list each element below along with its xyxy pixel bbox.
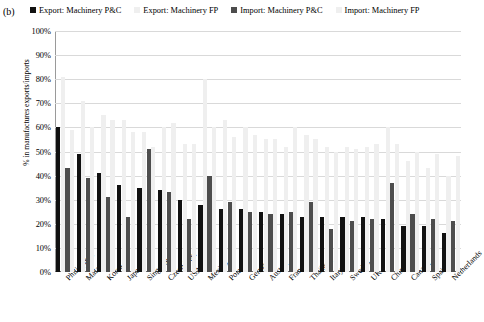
bar-group [319,31,339,272]
bar-group [96,31,116,272]
bar [158,190,162,272]
y-tick-label: 100% [7,27,51,36]
bar [410,214,414,272]
bar-group [400,31,420,272]
bar-group [136,31,156,272]
y-tick-label: 30% [7,195,51,204]
bar [446,176,450,272]
legend-item-1: Export: Machinery FP [134,6,218,15]
bar [86,178,90,272]
bar [147,149,151,272]
bar [70,130,74,272]
bar [219,209,223,272]
bar [81,101,85,272]
bar [162,127,166,272]
bar [435,154,439,272]
bar-group [380,31,400,272]
bar [203,79,207,272]
y-tick-label: 80% [7,75,51,84]
bar [365,147,369,272]
bar [207,176,211,272]
bar-group [360,31,380,272]
bar-group [75,31,95,272]
chart-legend: Export: Machinery P&CExport: Machinery F… [30,3,460,17]
bar [406,161,410,272]
bar [223,120,227,272]
y-tick-label: 60% [7,123,51,132]
bar [456,156,460,272]
y-tick-label: 0% [7,268,51,277]
bar [192,144,196,272]
bar [142,132,146,272]
bar [110,120,114,272]
bar [340,217,344,272]
bar [106,197,110,272]
bar-group [441,31,461,272]
bar [442,233,446,272]
bar [415,152,419,273]
bar [325,147,329,272]
bar [354,149,358,272]
bar [350,221,354,272]
panel-label: (b) [3,6,15,17]
bar [401,226,405,272]
bar [187,219,191,272]
bar-group [217,31,237,272]
bar [259,212,263,272]
bar [320,217,324,272]
bar [77,154,81,272]
bar [334,152,338,273]
plot-area [55,31,461,272]
bar [273,139,277,272]
legend-label: Export: Machinery P&C [39,6,121,15]
bar [361,217,365,272]
bar [395,144,399,272]
legend-swatch-icon [134,7,140,13]
bar [386,127,390,272]
bar-group [278,31,298,272]
bar-group [197,31,217,272]
bar [239,209,243,272]
legend-item-3: Import: Machinery FP [336,6,420,15]
y-tick-label: 10% [7,243,51,252]
y-tick-label: 90% [7,51,51,60]
bar-group [420,31,440,272]
bar [390,183,394,272]
legend-swatch-icon [30,7,36,13]
bar [422,226,426,272]
bar [374,144,378,272]
bar [122,120,126,272]
bar [451,221,455,272]
bar [171,123,175,272]
bar [381,219,385,272]
legend-label: Export: Machinery FP [143,6,218,15]
bar-group [258,31,278,272]
bar [426,168,430,272]
bar [178,200,182,272]
bar [65,168,69,272]
bar [126,217,130,272]
bar [232,137,236,272]
legend-item-0: Export: Machinery P&C [30,6,121,15]
bar [268,214,272,272]
bar [90,127,94,272]
legend-swatch-icon [336,7,342,13]
bar [329,229,333,272]
legend-label: Import: Machinery P&C [240,6,322,15]
bar-group [238,31,258,272]
bar [61,77,65,272]
bar [280,214,284,272]
bar [167,192,171,272]
y-tick-label: 20% [7,219,51,228]
bar [97,173,101,272]
bar [212,127,216,272]
bar [289,212,293,272]
y-tick-label: 50% [7,147,51,156]
bar [300,217,304,272]
bar [304,135,308,272]
bar [345,147,349,272]
bar [243,127,247,272]
bar [137,188,141,272]
legend-label: Import: Machinery FP [345,6,420,15]
bar [198,205,202,272]
